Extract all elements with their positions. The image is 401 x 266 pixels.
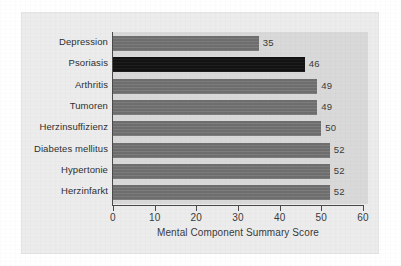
- category-label: Herzinfarkt: [61, 185, 108, 196]
- bar-depression: [113, 36, 259, 51]
- bar-value-label: 50: [325, 122, 336, 133]
- category-label: Depression: [59, 36, 108, 47]
- x-tick-label: 60: [348, 212, 378, 223]
- bar-row: Herzinsuffizienz50: [0, 118, 401, 139]
- bar-value-label: 46: [309, 58, 320, 69]
- category-label: Psoriasis: [69, 57, 108, 68]
- bar-row: Psoriasis46: [0, 54, 401, 75]
- category-label: Herzinsuffizienz: [40, 121, 108, 132]
- category-label: Hypertonie: [61, 164, 108, 175]
- chart-figure: Depression35Psoriasis46Arthritis49Tumore…: [0, 0, 401, 266]
- x-tick-mark: [155, 206, 156, 211]
- x-tick-label: 40: [265, 212, 295, 223]
- bar-value-label: 35: [263, 37, 274, 48]
- x-tick-label: 20: [181, 212, 211, 223]
- bar-value-label: 52: [334, 165, 345, 176]
- bar-arthritis: [113, 79, 317, 94]
- x-axis-title: Mental Component Summary Score: [112, 227, 364, 238]
- bar-row: Hypertonie52: [0, 161, 401, 182]
- bar-row: Diabetes mellitus52: [0, 140, 401, 161]
- x-tick-mark: [280, 206, 281, 211]
- x-tick-label: 50: [306, 212, 336, 223]
- x-tick-mark: [196, 206, 197, 211]
- bar-diabetes-mellitus: [113, 143, 330, 158]
- bar-psoriasis: [113, 57, 305, 72]
- bar-value-label: 52: [334, 144, 345, 155]
- category-label: Diabetes mellitus: [34, 143, 108, 154]
- x-tick-mark: [363, 206, 364, 211]
- x-tick-label: 10: [140, 212, 170, 223]
- bar-herzinsuffizienz: [113, 121, 321, 136]
- bar-row: Depression35: [0, 33, 401, 54]
- x-tick-mark: [238, 206, 239, 211]
- x-tick-mark: [321, 206, 322, 211]
- x-tick-label: 30: [223, 212, 253, 223]
- category-label: Tumoren: [70, 100, 108, 111]
- bar-tumoren: [113, 100, 317, 115]
- bar-row: Tumoren49: [0, 97, 401, 118]
- bar-value-label: 52: [334, 186, 345, 197]
- bar-hypertonie: [113, 164, 330, 179]
- bar-value-label: 49: [321, 80, 332, 91]
- x-tick-label: 0: [98, 212, 128, 223]
- bar-row: Herzinfarkt52: [0, 182, 401, 203]
- bar-row: Arthritis49: [0, 76, 401, 97]
- x-tick-mark: [113, 206, 114, 211]
- category-label: Arthritis: [75, 79, 108, 90]
- bar-herzinfarkt: [113, 185, 330, 200]
- bar-value-label: 49: [321, 101, 332, 112]
